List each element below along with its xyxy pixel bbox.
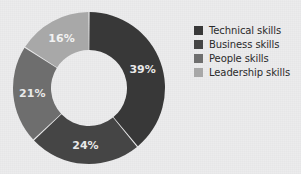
- legend-swatch-people-skills: [194, 54, 203, 63]
- legend-item-technical-skills[interactable]: Technical skills: [194, 23, 298, 37]
- slice-label-leadership: 16%: [48, 32, 74, 45]
- legend-swatch-technical-skills: [194, 26, 203, 35]
- slice-label-people: 21%: [19, 87, 45, 100]
- legend-label-people-skills: People skills: [209, 53, 269, 64]
- legend-swatch-business-skills: [194, 40, 203, 49]
- legend-swatch-leadership-skills: [194, 68, 203, 77]
- page-root: 39% 24% 21% 16% Technical skills Busines…: [0, 0, 301, 174]
- donut-chart: 39% 24% 21% 16%: [12, 11, 166, 165]
- legend-item-leadership-skills[interactable]: Leadership skills: [194, 65, 298, 79]
- legend-label-leadership-skills: Leadership skills: [209, 67, 290, 78]
- legend-label-technical-skills: Technical skills: [209, 25, 281, 36]
- slice-label-business: 24%: [72, 139, 98, 152]
- legend-item-people-skills[interactable]: People skills: [194, 51, 298, 65]
- legend-item-business-skills[interactable]: Business skills: [194, 37, 298, 51]
- slice-label-technical: 39%: [129, 63, 155, 76]
- chart-legend: Technical skills Business skills People …: [194, 23, 298, 79]
- legend-label-business-skills: Business skills: [209, 39, 279, 50]
